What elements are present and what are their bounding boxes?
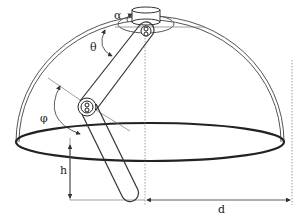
label-theta: θ <box>90 41 97 54</box>
joint-lower <box>78 98 96 116</box>
label-alpha: α <box>114 9 122 22</box>
joint-upper <box>141 26 151 36</box>
base-ellipse <box>16 123 284 161</box>
label-phi: φ <box>40 112 48 125</box>
label-d: d <box>218 203 225 216</box>
label-h: h <box>60 164 67 177</box>
dome-mechanism-diagram: α θ φ h d <box>0 0 304 216</box>
